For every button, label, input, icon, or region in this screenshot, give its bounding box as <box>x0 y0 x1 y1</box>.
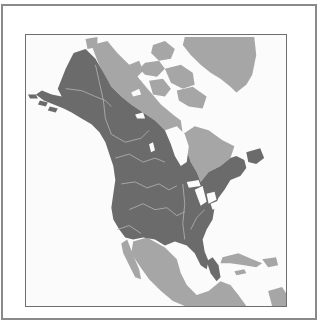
north-america-map <box>26 35 286 306</box>
map-panel <box>25 34 287 307</box>
outer-frame <box>1 4 317 320</box>
